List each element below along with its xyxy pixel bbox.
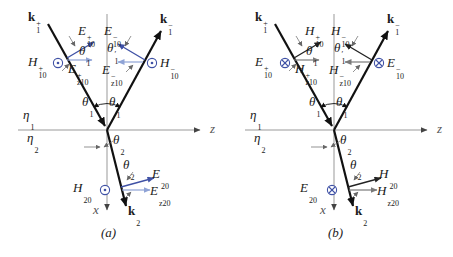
reflected-z-component-label: E−z10	[102, 63, 123, 87]
diagram-a: k+1 k−1 E+10 θ1 E+z10 H+10 E−10 θ′1 E−z1…	[0, 0, 226, 257]
reflected-out-of-page-symbol	[147, 58, 156, 67]
incident-normal-field-label: H+10	[28, 55, 46, 79]
diagram-a-caption: (a)	[101, 226, 116, 239]
x-axis-label: x	[320, 203, 326, 216]
transmitted-out-of-page-symbol	[100, 185, 109, 194]
incident-out-of-page-symbol	[53, 58, 62, 67]
k-incident-label: k+1	[255, 10, 268, 34]
k-transmitted-label: k2	[128, 204, 140, 227]
incident-into-page-symbol	[280, 58, 289, 67]
angle-reflection-label: θ′1	[336, 95, 347, 119]
diagram-b-caption: (b)	[328, 226, 343, 239]
angle-transmission-label-lower: θ2	[350, 158, 361, 181]
angle-incidence-label: θ1	[82, 95, 93, 118]
k-transmitted-label: k2	[355, 204, 367, 227]
angle-reflection-label: θ′1	[109, 95, 120, 119]
angle-transmission-label-upper: θ2	[340, 133, 351, 156]
angle-transmission-label-upper: θ2	[113, 133, 124, 156]
transmitted-z-component-label: Ez20	[150, 184, 171, 207]
reflected-inplane-field-arrow	[118, 44, 145, 60]
x-axis-label: x	[93, 203, 99, 216]
incident-z-component-label: H+z10	[295, 62, 317, 86]
incident-z-component-label: E+z10	[68, 62, 89, 86]
angle-transmission-label-lower: θ2	[123, 158, 134, 181]
transmitted-into-page-symbol	[327, 185, 336, 194]
z-axis-label: z	[210, 122, 215, 135]
k-incident-label: k+1	[28, 10, 41, 34]
reflected-z-component-label: H−z10	[329, 63, 351, 87]
medium1-label: η1	[250, 108, 261, 131]
medium2-label: η2	[254, 131, 265, 154]
transmitted-normal-field-label: E20	[300, 181, 317, 204]
incident-normal-field-label: E+10	[255, 55, 272, 79]
diagram-b: k+1 k−1 H+10 θ1 H+z10 E+10 H−10 θ′1 H−z1…	[227, 0, 453, 257]
transmitted-normal-field-label: H20	[73, 181, 91, 204]
transmitted-z-component-label: Hz20	[377, 184, 399, 207]
figure: k+1 k−1 E+10 θ1 E+z10 H+10 E−10 θ′1 E−z1…	[0, 0, 453, 257]
k-reflected-label: k−1	[387, 12, 400, 36]
reflected-normal-field-label: E−10	[387, 56, 404, 80]
reflected-into-page-symbol	[374, 58, 383, 67]
k-reflected-label: k−1	[160, 12, 173, 36]
medium2-label: η2	[27, 131, 38, 154]
reflected-normal-field-label: H−10	[160, 56, 178, 80]
medium1-label: η1	[23, 108, 34, 131]
angle-incidence-label: θ1	[309, 95, 320, 118]
z-axis-label: z	[437, 122, 442, 135]
